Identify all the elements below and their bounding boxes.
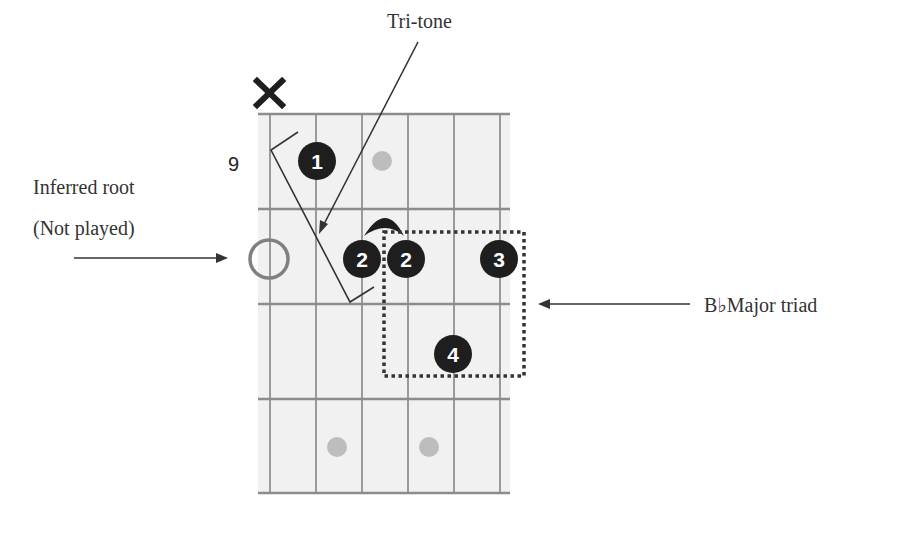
triad-arrow-head bbox=[538, 299, 550, 309]
fret-position-label: 9 bbox=[228, 153, 239, 175]
finger-dot-2a: 2 bbox=[343, 240, 381, 278]
inferred-root-arrow-head bbox=[216, 253, 228, 263]
svg-text:2: 2 bbox=[356, 248, 368, 271]
svg-text:2: 2 bbox=[400, 248, 412, 271]
inlay-dot bbox=[372, 151, 392, 171]
finger-dot-4: 4 bbox=[434, 335, 472, 373]
finger-dot-2b: 2 bbox=[387, 240, 425, 278]
chord-diagram: 9 1 2 2 3 4 Tri-tone Inferred root (Not … bbox=[0, 0, 900, 551]
finger-dot-3: 3 bbox=[480, 240, 518, 278]
svg-text:4: 4 bbox=[447, 343, 459, 366]
inlay-dot bbox=[327, 437, 347, 457]
muted-string-x-icon bbox=[257, 81, 282, 105]
svg-text:3: 3 bbox=[493, 248, 505, 271]
inferred-root-label-line2: (Not played) bbox=[33, 217, 135, 240]
svg-text:1: 1 bbox=[311, 150, 323, 173]
tritone-label: Tri-tone bbox=[387, 10, 452, 32]
finger-dot-1: 1 bbox=[298, 142, 336, 180]
triad-label: B♭Major triad bbox=[704, 294, 817, 317]
inlay-dot bbox=[419, 437, 439, 457]
inferred-root-label-line1: Inferred root bbox=[33, 176, 135, 198]
